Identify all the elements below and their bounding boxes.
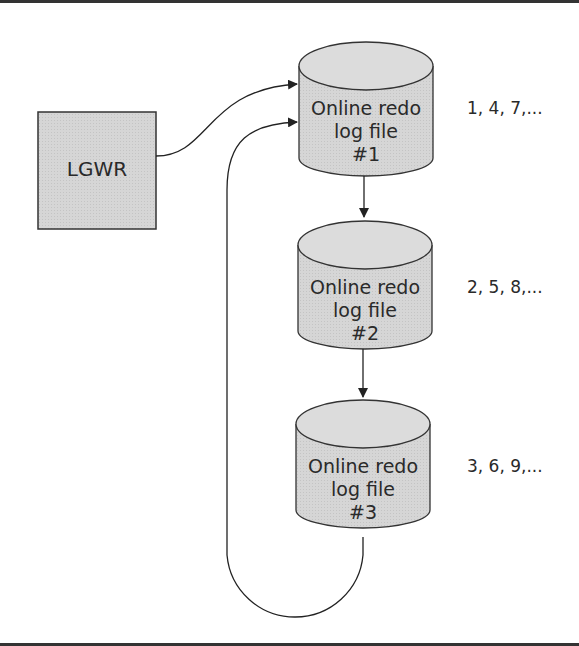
log-file-1-line2: log file <box>299 120 433 143</box>
log-file-1-label: Online redo log file #1 <box>299 97 433 166</box>
loop-back-arrow <box>227 122 363 617</box>
log-file-3-number: #3 <box>296 501 430 524</box>
log-file-1-line1: Online redo <box>299 97 433 120</box>
lgwr-write-arrow <box>156 84 297 156</box>
log-file-1-number: #1 <box>299 143 433 166</box>
log-file-2-sequence: 2, 5, 8,... <box>467 277 543 297</box>
log-file-2-number: #2 <box>298 322 432 345</box>
log-file-1-sequence: 1, 4, 7,... <box>467 98 543 118</box>
log-file-2-label: Online redo log file #2 <box>298 276 432 345</box>
log-file-3-sequence: 3, 6, 9,... <box>467 456 543 476</box>
log-file-2-line1: Online redo <box>298 276 432 299</box>
log-file-3-label: Online redo log file #3 <box>296 455 430 524</box>
lgwr-label: LGWR <box>38 158 156 181</box>
log-file-3-line2: log file <box>296 478 430 501</box>
log-file-2-line2: log file <box>298 299 432 322</box>
log-file-3-line1: Online redo <box>296 455 430 478</box>
diagram-canvas <box>0 0 579 646</box>
